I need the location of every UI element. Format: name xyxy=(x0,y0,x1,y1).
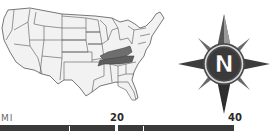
scale-bar-segment-2 xyxy=(118,125,234,131)
scale-tick-40: 40 xyxy=(228,112,242,123)
scale-unit-label: MI xyxy=(1,113,13,123)
scale-minor-tick xyxy=(69,126,70,131)
us-locator-map xyxy=(0,0,172,104)
compass-north-letter: N xyxy=(214,51,233,77)
scale-bar-segment-1 xyxy=(0,125,115,131)
scale-minor-tick xyxy=(143,126,144,131)
us-outline xyxy=(2,8,164,100)
compass-rose-icon: N xyxy=(178,14,270,114)
scale-tick-20: 20 xyxy=(110,112,124,123)
